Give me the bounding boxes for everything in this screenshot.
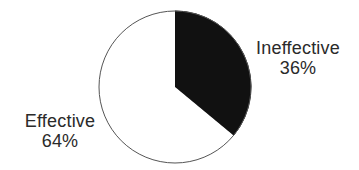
- slice-label-effective: Effective 64%: [16, 111, 104, 151]
- slice-label-ineffective: Ineffective 36%: [250, 38, 346, 78]
- slice-label-text: Effective: [16, 111, 104, 131]
- slice-label-text: Ineffective: [250, 38, 346, 58]
- slice-label-value: 64%: [16, 131, 104, 151]
- slice-label-value: 36%: [250, 58, 346, 78]
